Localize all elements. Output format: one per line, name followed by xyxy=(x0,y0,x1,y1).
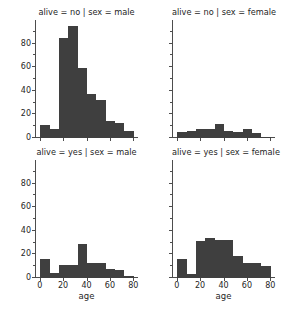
histogram-bar xyxy=(224,131,233,138)
facet-grid-figure: alive = no | sex = male020406080alive = … xyxy=(0,0,307,311)
histogram-bars-alive-no-female xyxy=(172,20,275,138)
histogram-bar xyxy=(40,259,49,278)
x-tick-mark xyxy=(110,138,111,141)
histogram-bar xyxy=(233,132,242,138)
y-tick-label: 80 xyxy=(21,180,31,188)
histogram-bar xyxy=(215,240,224,278)
histogram-bar xyxy=(215,124,224,138)
facet-panel-alive-no-female: alive = no | sex = female xyxy=(137,7,275,168)
histogram-bar xyxy=(205,129,214,138)
x-tick-mark xyxy=(40,138,41,141)
facet-title-alive-no-male: alive = no | sex = male xyxy=(35,7,138,18)
x-tick-mark xyxy=(247,138,248,141)
x-tick-label: 80 xyxy=(265,282,275,290)
x-tick-mark xyxy=(133,138,134,141)
histogram-bar xyxy=(224,240,233,278)
histogram-bar xyxy=(115,123,124,138)
histogram-bar xyxy=(196,241,205,278)
histogram-bar xyxy=(124,277,133,278)
x-tick-label: 20 xyxy=(195,282,205,290)
histogram-bar xyxy=(68,26,77,138)
x-tick-label: 60 xyxy=(242,282,252,290)
histogram-bar xyxy=(187,131,196,138)
histogram-bars-alive-no-male xyxy=(35,20,138,138)
histogram-bar xyxy=(96,100,105,138)
histogram-bar xyxy=(87,94,96,138)
x-tick-mark xyxy=(270,138,271,141)
facet-panel-alive-yes-female: alive = yes | sex = female020406080 xyxy=(137,147,275,308)
histogram-bar xyxy=(78,68,87,138)
histogram-bar xyxy=(196,129,205,138)
x-tick-mark xyxy=(200,138,201,141)
histogram-bar xyxy=(115,270,124,278)
x-tick-label: 20 xyxy=(58,282,68,290)
y-tick-label: 0 xyxy=(26,134,31,142)
histogram-bar xyxy=(243,129,252,138)
y-tick-label: 20 xyxy=(21,110,31,118)
histogram-bar xyxy=(50,129,59,138)
y-tick-label: 60 xyxy=(21,63,31,71)
x-tick-mark xyxy=(63,138,64,141)
histogram-bar xyxy=(106,269,115,278)
y-tick-label: 20 xyxy=(21,250,31,258)
facet-title-alive-yes-female: alive = yes | sex = female xyxy=(172,147,275,158)
plot-area-alive-no-female xyxy=(172,20,275,138)
histogram-bar xyxy=(177,259,186,278)
y-tick-label: 60 xyxy=(21,203,31,211)
x-tick-mark xyxy=(224,138,225,141)
histogram-bar xyxy=(243,263,252,278)
y-tick-label: 40 xyxy=(21,87,31,95)
histogram-bar xyxy=(252,263,261,278)
histogram-bar xyxy=(261,266,270,278)
x-tick-mark xyxy=(177,138,178,141)
histogram-bar xyxy=(96,263,105,278)
histogram-bar xyxy=(68,265,77,278)
x-tick-label: 40 xyxy=(81,282,91,290)
x-tick-label: 0 xyxy=(37,282,42,290)
histogram-bar xyxy=(50,273,59,278)
x-tick-label: 0 xyxy=(174,282,179,290)
facet-title-alive-no-female: alive = no | sex = female xyxy=(172,7,275,18)
y-tick-label: 40 xyxy=(21,227,31,235)
histogram-bar xyxy=(187,274,196,278)
facet-panel-alive-yes-male: alive = yes | sex = male0204060800204060… xyxy=(0,147,138,308)
histogram-bar xyxy=(233,256,242,278)
y-tick-label: 80 xyxy=(21,40,31,48)
x-axis-label: age xyxy=(35,291,138,301)
histogram-bar xyxy=(252,133,261,138)
histogram-bar xyxy=(106,121,115,138)
histogram-bar xyxy=(59,38,68,138)
histogram-bar xyxy=(87,263,96,278)
histogram-bar xyxy=(205,238,214,278)
x-tick-label: 40 xyxy=(218,282,228,290)
histogram-bar xyxy=(40,125,49,138)
facet-panel-alive-no-male: alive = no | sex = male020406080 xyxy=(0,7,138,168)
x-axis-label: age xyxy=(172,291,275,301)
histogram-bars-alive-yes-male xyxy=(35,160,138,278)
x-tick-label: 60 xyxy=(105,282,115,290)
histogram-bar xyxy=(177,132,186,138)
facet-title-alive-yes-male: alive = yes | sex = male xyxy=(35,147,138,158)
plot-area-alive-yes-male: 020406080020406080 xyxy=(35,160,138,278)
x-tick-mark xyxy=(87,138,88,141)
plot-area-alive-yes-female: 020406080 xyxy=(172,160,275,278)
histogram-bars-alive-yes-female xyxy=(172,160,275,278)
histogram-bar xyxy=(124,131,133,138)
y-tick-label: 0 xyxy=(26,274,31,282)
histogram-bar xyxy=(59,265,68,278)
histogram-bar xyxy=(78,244,87,278)
plot-area-alive-no-male: 020406080 xyxy=(35,20,138,138)
histogram-bar xyxy=(261,137,270,138)
